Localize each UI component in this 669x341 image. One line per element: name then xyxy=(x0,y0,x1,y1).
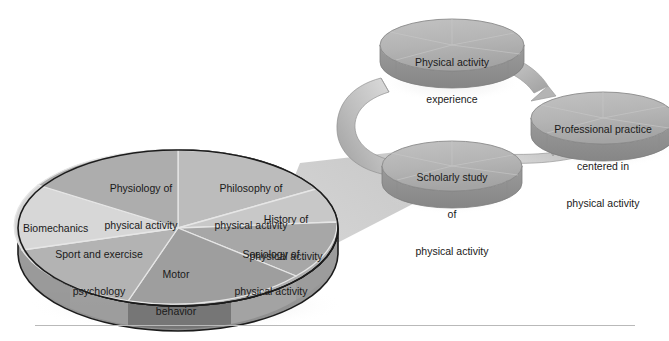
node-label-line: of xyxy=(382,208,522,220)
node-label-scholarly-study: Scholarly study of physical activity xyxy=(382,147,522,281)
node-label-physical-activity-experience: Physical activity experience xyxy=(382,32,522,130)
node-label-line: Scholarly study xyxy=(382,171,522,183)
node-label-line: centered in xyxy=(527,160,669,172)
figure-root: Physical activity experience Professiona… xyxy=(0,0,669,341)
node-label-line: Physical activity xyxy=(382,56,522,68)
node-label-line: experience xyxy=(382,93,522,105)
node-label-professional-practice: Professional practice centered in physic… xyxy=(527,99,669,233)
subdisciplines-pie[interactable] xyxy=(14,150,338,331)
bottom-divider xyxy=(35,325,635,326)
node-label-line: physical activity xyxy=(382,245,522,257)
node-label-line: physical activity xyxy=(527,197,669,209)
node-label-line: Professional practice xyxy=(527,123,669,135)
